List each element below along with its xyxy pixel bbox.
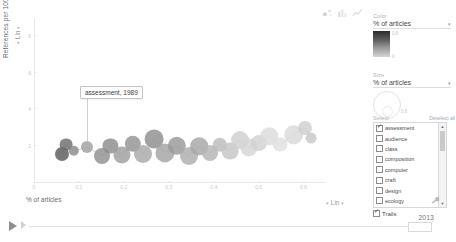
color-gradient-legend[interactable]: [373, 31, 390, 57]
timeline-track[interactable]: [29, 226, 428, 227]
color-section: Color % of articles ▾ 0.6 0: [373, 13, 453, 57]
scrollbar-thumb[interactable]: [440, 131, 445, 151]
bubble-tooltip: assessment, 1989: [80, 86, 143, 99]
list-item-checkbox[interactable]: [376, 197, 383, 204]
play-button[interactable]: [9, 221, 17, 231]
scatter-chart-icon[interactable]: [322, 7, 333, 18]
trails-label: Trails: [382, 211, 396, 217]
list-item-label: design: [385, 188, 401, 194]
list-item[interactable]: class: [374, 144, 446, 154]
color-scale-tick-min: 0: [392, 54, 395, 59]
bar-chart-icon[interactable]: [337, 7, 348, 18]
list-item-checkbox[interactable]: [376, 177, 383, 184]
list-item-label: class: [385, 146, 398, 152]
scroll-up-icon[interactable]: ▲: [439, 123, 446, 130]
list-item[interactable]: assessment: [374, 123, 446, 133]
size-scale-tick: 0.6: [401, 109, 407, 114]
deselect-all-button[interactable]: Deselect all: [429, 115, 455, 121]
size-indicator-select[interactable]: % of articles ▾: [373, 79, 451, 88]
size-indicator-value: % of articles: [373, 79, 411, 86]
list-item-label: computer: [385, 167, 408, 173]
color-scale-tick-max: 0.6: [392, 31, 398, 36]
list-item-label: composition: [385, 156, 414, 162]
list-item-label: audience: [385, 136, 407, 142]
select-section-label: Select: [373, 115, 389, 121]
control-panel: Color % of articles ▾ 0.6 0 Size % of ar…: [370, 0, 456, 215]
list-item[interactable]: design: [374, 185, 446, 195]
chart-type-toolbar[interactable]: [322, 7, 363, 18]
list-item-label: assessment: [385, 125, 414, 131]
list-item[interactable]: craft: [374, 175, 446, 185]
line-chart-icon[interactable]: [352, 7, 363, 18]
chevron-down-icon: ▾: [448, 80, 451, 86]
chart-canvas[interactable]: References per 1000 words % of articles …: [0, 0, 370, 215]
list-item-label: craft: [385, 177, 396, 183]
step-forward-button[interactable]: [21, 221, 26, 229]
chevron-down-icon: ▾: [448, 21, 451, 27]
color-section-label: Color: [373, 13, 453, 19]
list-item[interactable]: composition: [374, 154, 446, 164]
list-item-checkbox[interactable]: [376, 125, 383, 132]
list-item[interactable]: computer: [374, 165, 446, 175]
entity-select-section: Select Deselect all assessmentaudiencecl…: [373, 115, 453, 217]
size-section: Size % of articles ▾ 0.6: [373, 72, 453, 119]
bubble-chart-app: References per 1000 words % of articles …: [0, 0, 456, 242]
trails-toggle[interactable]: Trails: [373, 210, 453, 217]
timeline-year-label: 2013: [418, 214, 434, 221]
size-section-label: Size: [373, 72, 453, 78]
list-item-checkbox[interactable]: [376, 145, 383, 152]
list-item-checkbox[interactable]: [376, 166, 383, 173]
color-indicator-select[interactable]: % of articles ▾: [373, 20, 451, 29]
wrench-icon[interactable]: [430, 196, 441, 207]
list-item-label: ecology: [385, 198, 404, 204]
list-item-checkbox[interactable]: [376, 135, 383, 142]
list-item-checkbox[interactable]: [376, 187, 383, 194]
list-scrollbar[interactable]: ▲ ▼: [438, 123, 446, 207]
timeline-control[interactable]: 2013: [0, 217, 456, 242]
timeline-handle[interactable]: [408, 222, 432, 232]
trails-checkbox[interactable]: [373, 210, 380, 217]
list-item-checkbox[interactable]: [376, 156, 383, 163]
tooltip-stem: [87, 97, 88, 141]
color-indicator-value: % of articles: [373, 20, 411, 27]
list-item[interactable]: audience: [374, 133, 446, 143]
trail-line: [0, 0, 370, 215]
